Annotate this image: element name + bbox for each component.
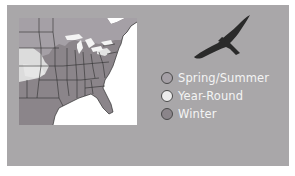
range-map [19, 18, 137, 125]
year-round-swatch-icon [161, 90, 173, 102]
legend-item-winter: Winter [161, 105, 269, 123]
map-panel: Spring/Summer Year-Round Winter [7, 5, 289, 166]
legend-item-year-round: Year-Round [161, 87, 269, 105]
legend-label: Spring/Summer [178, 71, 269, 85]
spring-summer-swatch-icon [161, 72, 173, 84]
legend: Spring/Summer Year-Round Winter [161, 69, 269, 123]
winter-swatch-icon [161, 108, 173, 120]
us-map-icon [19, 18, 137, 125]
legend-item-spring-summer: Spring/Summer [161, 69, 269, 87]
legend-label: Year-Round [178, 89, 243, 103]
hawk-silhouette-icon [192, 13, 254, 61]
legend-label: Winter [178, 107, 217, 121]
